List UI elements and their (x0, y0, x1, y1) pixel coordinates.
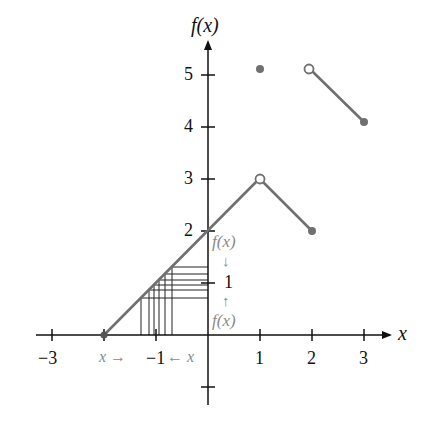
annotation-fx-top: f(x) (212, 232, 236, 252)
annotation-x-right: ← x (167, 348, 194, 366)
x-tick-label-2: 2 (307, 348, 316, 369)
down-arrow-annotation: ↓ (222, 253, 230, 270)
x-tick-label-1: 1 (255, 348, 264, 369)
up-arrow-annotation: ↑ (222, 293, 230, 310)
y-axis (201, 42, 215, 405)
closed-point-3-4 (360, 118, 368, 126)
segment-upper (313, 72, 364, 122)
y-tick-label-5: 5 (184, 64, 193, 85)
limit-rectangles (141, 267, 208, 335)
closed-point-2-2 (308, 227, 316, 235)
x-tick-label-neg1: −1 (146, 348, 165, 369)
x-tick-label-neg3: −3 (38, 348, 57, 369)
segment-falling (263, 182, 312, 231)
closed-point-neg2-0 (101, 332, 108, 339)
x-axis-label: x (398, 322, 407, 345)
y-axis-label: f(x) (191, 14, 219, 37)
open-point-1-3 (256, 175, 265, 184)
closed-point-1-5 (256, 65, 264, 73)
y-tick-label-2: 2 (184, 220, 193, 241)
annotation-fx-bottom: f(x) (212, 311, 236, 331)
y-tick-label-3: 3 (184, 168, 193, 189)
function-curve (104, 72, 364, 335)
annotation-x-left: x → (99, 348, 126, 366)
y-tick-label-1: 1 (224, 272, 233, 293)
open-point-2-5 (305, 65, 314, 74)
x-tick-label-3: 3 (359, 348, 368, 369)
y-tick-label-4: 4 (184, 116, 193, 137)
